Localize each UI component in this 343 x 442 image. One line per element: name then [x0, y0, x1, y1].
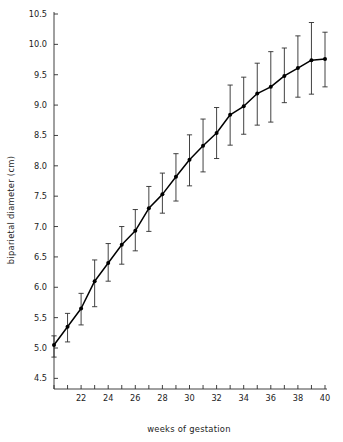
- x-tick-label: 40: [320, 393, 330, 403]
- y-tick-label: 5.5: [34, 313, 47, 323]
- data-point: [269, 85, 273, 89]
- y-tick-label: 6.0: [34, 282, 47, 292]
- x-axis-title: weeks of gestation: [147, 424, 231, 434]
- y-tick-label: 7.5: [34, 191, 47, 201]
- data-point: [255, 92, 259, 96]
- y-axis-title: biparietal diameter (cm): [6, 156, 16, 264]
- y-tick-label: 9.5: [34, 70, 47, 80]
- x-tick-label: 36: [266, 393, 276, 403]
- y-tick-label: 10.0: [29, 39, 47, 49]
- data-point: [188, 158, 192, 162]
- data-point: [133, 229, 137, 233]
- y-tick-label: 6.5: [34, 252, 47, 262]
- y-tick-label: 4.5: [34, 373, 47, 383]
- data-point: [174, 175, 178, 179]
- data-point: [282, 74, 286, 78]
- data-point: [201, 144, 205, 148]
- x-tick-label: 30: [184, 393, 194, 403]
- data-point: [66, 325, 70, 329]
- data-point: [93, 279, 97, 283]
- data-point: [79, 307, 83, 311]
- y-tick-label: 9.0: [34, 100, 47, 110]
- y-tick-label: 8.0: [34, 161, 47, 171]
- biparietal-diameter-growth-chart: 4.55.05.56.06.57.07.58.08.59.09.510.010.…: [0, 0, 343, 442]
- y-tick-label: 7.0: [34, 222, 47, 232]
- y-tick-label: 5.0: [34, 343, 47, 353]
- data-point: [160, 192, 164, 196]
- data-point: [106, 261, 110, 265]
- x-tick-label: 38: [293, 393, 303, 403]
- x-tick-label: 26: [130, 393, 140, 403]
- data-point: [52, 343, 56, 347]
- data-point: [215, 131, 219, 135]
- data-point: [228, 113, 232, 117]
- data-point: [242, 104, 246, 108]
- y-tick-label: 8.5: [34, 130, 47, 140]
- x-tick-label: 34: [238, 393, 248, 403]
- chart-background: [0, 0, 343, 442]
- data-point: [323, 57, 327, 61]
- x-tick-label: 28: [157, 393, 167, 403]
- x-tick-label: 32: [211, 393, 221, 403]
- data-point: [309, 58, 313, 62]
- x-tick-label: 24: [103, 393, 113, 403]
- data-point: [147, 206, 151, 210]
- data-point: [120, 243, 124, 247]
- x-tick-label: 22: [76, 393, 86, 403]
- chart-container: 4.55.05.56.06.57.07.58.08.59.09.510.010.…: [0, 0, 343, 442]
- y-tick-label: 10.5: [29, 9, 47, 19]
- data-point: [296, 66, 300, 70]
